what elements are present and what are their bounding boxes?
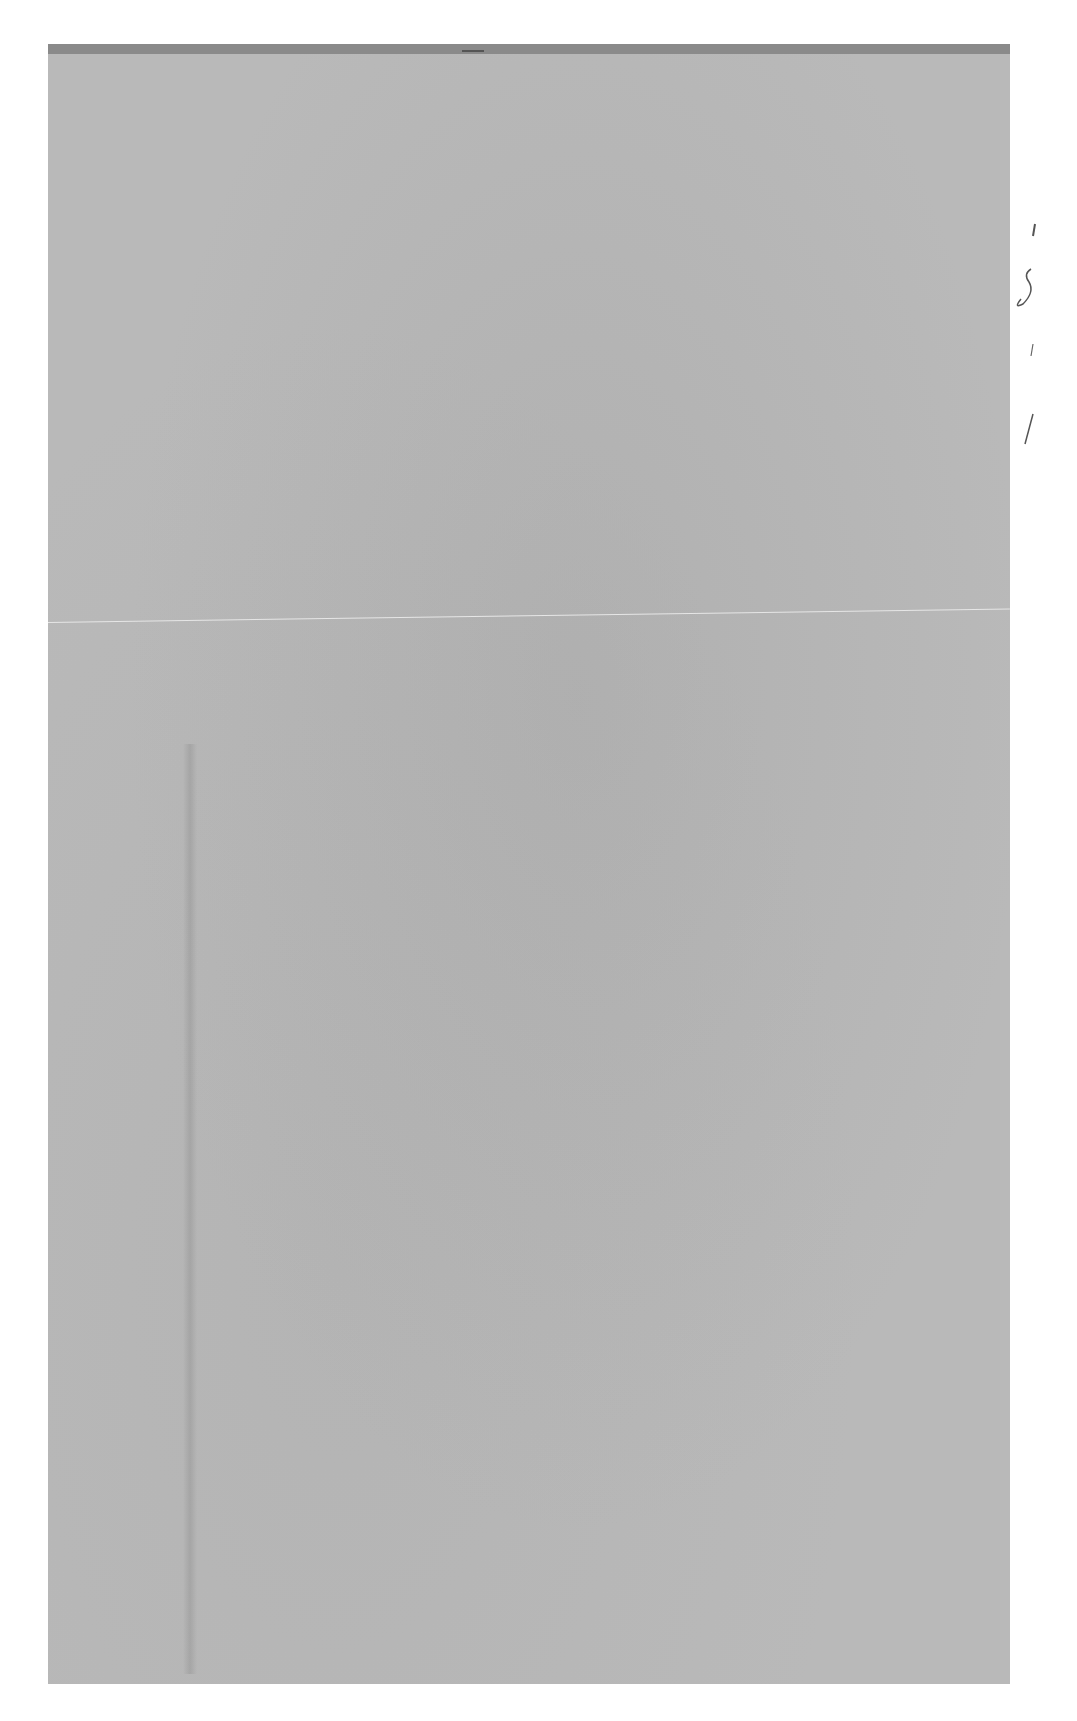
fold-crease: [48, 609, 1010, 623]
binding-shadow: [183, 744, 197, 1674]
top-edge-mark: [462, 46, 484, 52]
handwritten-marks-icon: [1003, 214, 1043, 474]
top-edge-band: [48, 44, 1010, 54]
scanned-page: [48, 44, 1010, 1684]
